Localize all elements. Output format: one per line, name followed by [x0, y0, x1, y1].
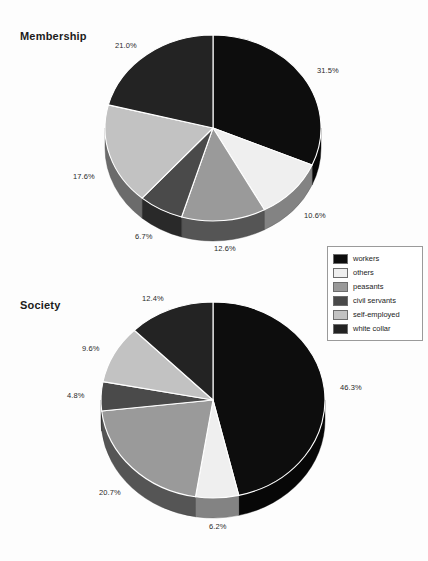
legend-item-label: others	[353, 269, 374, 277]
legend-item: workers	[333, 252, 418, 265]
chart-panel-membership: Membership 31.5%10.6%12.6%6.7%17.6%21.0%	[0, 0, 428, 280]
pie-slice	[102, 400, 213, 497]
legend-item-label: self-employed	[353, 311, 400, 319]
pie-slice-value-label: 12.6%	[214, 244, 236, 253]
pie-slice-value-label: 9.6%	[82, 344, 100, 353]
figure-two-pie-charts: Membership 31.5%10.6%12.6%6.7%17.6%21.0%…	[0, 0, 428, 561]
pie-top-face	[101, 302, 325, 498]
legend-item-label: civil servants	[353, 297, 396, 305]
pie-slice-value-label: 10.6%	[304, 211, 326, 220]
legend-item: white collar	[333, 322, 418, 335]
pie-slice-side	[195, 495, 238, 518]
pie-top-face	[105, 35, 321, 221]
legend-swatch-icon	[333, 324, 348, 334]
legend-item-label: peasants	[353, 283, 383, 291]
legend-swatch-icon	[333, 310, 348, 320]
pie-slice-value-label: 6.2%	[209, 522, 227, 531]
legend-item: peasants	[333, 280, 418, 293]
legend-swatch-icon	[333, 268, 348, 278]
legend-item: civil servants	[333, 294, 418, 307]
legend-swatch-icon	[333, 282, 348, 292]
pie-slice-value-label: 6.7%	[135, 232, 153, 241]
pie-graphic	[0, 0, 428, 280]
legend-item-label: workers	[353, 255, 379, 263]
pie-membership: 31.5%10.6%12.6%6.7%17.6%21.0%	[0, 0, 428, 280]
pie-slice-value-label: 4.8%	[67, 391, 85, 400]
legend-item-label: white collar	[353, 325, 391, 333]
pie-slice-value-label: 46.3%	[340, 383, 362, 392]
pie-slice-value-label: 20.7%	[99, 488, 121, 497]
pie-slice-value-label: 21.0%	[115, 41, 137, 50]
legend-item: self-employed	[333, 308, 418, 321]
legend-swatch-icon	[333, 254, 348, 264]
pie-slice-value-label: 31.5%	[317, 66, 339, 75]
chart-legend: workersotherspeasantscivil servantsself-…	[327, 246, 423, 341]
legend-swatch-icon	[333, 296, 348, 306]
pie-slice-value-label: 17.6%	[73, 172, 95, 181]
pie-slice-value-label: 12.4%	[142, 294, 164, 303]
legend-item: others	[333, 266, 418, 279]
